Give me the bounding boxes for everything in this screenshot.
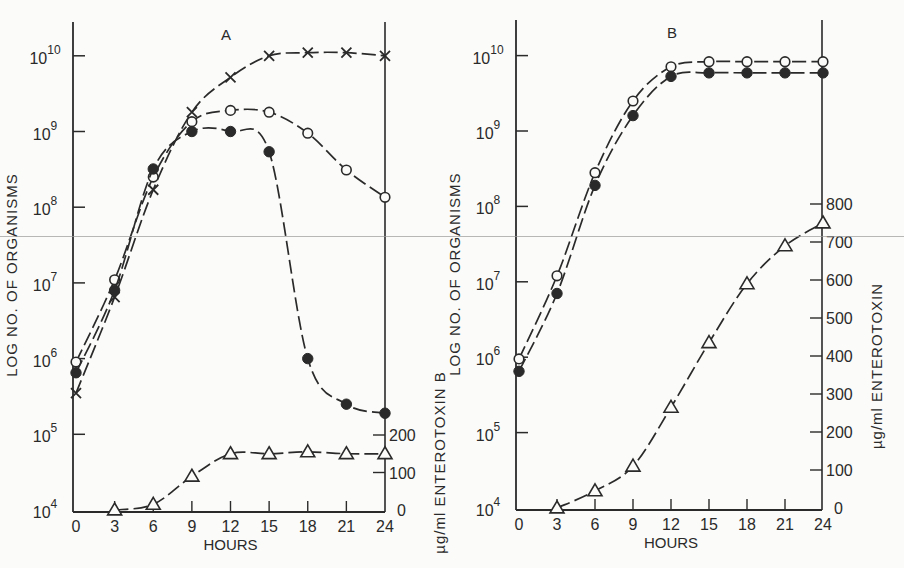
open-triangle-marker-icon [702,336,716,348]
x-tick-label: 9 [187,518,196,535]
filled-circle-marker-icon [187,126,197,136]
filled-circle-marker-icon [380,408,390,418]
x-tick-label: 9 [629,516,638,533]
y2-tick-label: 800 [826,196,853,213]
series-line [76,52,385,393]
growth-enterotoxin-chart: A104105106107108109101003691215182124HOU… [0,0,904,568]
panel-a-chart: A104105106107108109101003691215182124HOU… [3,22,448,554]
y2-tick-label: 100 [389,465,416,482]
filled-circle-marker-icon [780,68,790,78]
y-tick-label: 109 [33,119,58,143]
x-tick-label: 15 [700,516,718,533]
x-tick-label: 3 [553,516,562,533]
open-triangle-marker-icon [778,239,792,251]
open-triangle-marker-icon [816,216,830,228]
series-filled-circle [514,68,828,377]
x-tick-label: 6 [591,516,600,533]
y2-tick-label: 400 [826,348,853,365]
filled-circle-marker-icon [303,353,313,363]
open-triangle-marker-icon [262,447,276,459]
y-tick-label: 1010 [29,43,60,67]
filled-circle-marker-icon [148,164,158,174]
series-open-circle [514,57,828,364]
x-tick-label: 0 [515,516,524,533]
x-tick-label: 24 [376,518,394,535]
y2-tick-label: 100 [826,462,853,479]
y-tick-label: 108 [476,193,501,217]
series-line [76,128,385,413]
filled-circle-marker-icon [666,71,676,81]
y-tick-label: 106 [476,344,501,368]
x-tick-label: 12 [222,518,240,535]
open-circle-marker-icon [187,117,197,127]
panel-title: B [667,24,677,41]
open-circle-marker-icon [780,57,790,67]
x-tick-label: 6 [149,518,158,535]
series-open-triangle [108,445,392,515]
filled-circle-marker-icon [225,126,235,136]
open-circle-marker-icon [628,96,638,106]
y2-axis-label: µg/ml ENTEROTOXIN [868,283,885,449]
y2-tick-label: 0 [397,502,406,519]
y-tick-label: 106 [33,346,58,370]
x-axis-label: HOURS [203,536,257,553]
y2-tick-label: 600 [826,272,853,289]
open-circle-marker-icon [704,57,714,67]
filled-circle-marker-icon [552,288,562,298]
series-line [519,61,823,359]
cross-marker-icon [226,72,236,82]
y-tick-label: 105 [33,421,58,445]
x-tick-label: 18 [738,516,756,533]
open-triangle-marker-icon [588,484,602,496]
open-triangle-marker-icon [185,469,199,481]
filled-circle-marker-icon [341,399,351,409]
figure: A104105106107108109101003691215182124HOU… [0,0,904,568]
open-circle-marker-icon [264,107,274,117]
y-axis-label: LOG NO. OF ORGANISMS [3,173,20,376]
x-tick-label: 18 [299,518,317,535]
open-circle-marker-icon [380,193,390,203]
y2-axis-label: µg/ml ENTEROTOXIN B [431,371,448,553]
open-triangle-marker-icon [146,497,160,509]
y2-tick-label: 200 [389,427,416,444]
open-circle-marker-icon [226,106,236,116]
x-tick-label: 24 [814,516,832,533]
x-tick-label: 12 [662,516,680,533]
open-circle-marker-icon [666,62,676,72]
open-triangle-marker-icon [550,501,564,513]
series-open-triangle [550,216,830,513]
y2-tick-label: 200 [826,424,853,441]
y-tick-label: 104 [33,497,58,521]
open-circle-marker-icon [303,128,313,138]
open-circle-marker-icon [818,57,828,67]
x-tick-label: 21 [776,516,794,533]
y-tick-label: 104 [476,495,501,519]
y-tick-label: 105 [476,420,501,444]
y-axis-label: LOG NO. OF ORGANISMS [446,172,463,375]
series-line [519,72,823,371]
filled-circle-marker-icon [742,68,752,78]
open-triangle-marker-icon [339,447,353,459]
x-tick-label: 21 [337,518,355,535]
filled-circle-marker-icon [109,285,119,295]
filled-circle-marker-icon [628,110,638,120]
open-circle-marker-icon [742,57,752,67]
filled-circle-marker-icon [818,68,828,78]
cross-marker-icon [187,107,197,117]
y-tick-label: 108 [33,194,58,218]
y-tick-label: 109 [476,118,501,142]
filled-circle-marker-icon [514,366,524,376]
panel-b-chart: B104105106107108109101003691215182124HOU… [446,20,885,551]
scan-artifact-line [0,236,904,237]
cross-marker-icon [264,51,274,61]
open-triangle-marker-icon [626,459,640,471]
filled-circle-marker-icon [704,68,714,78]
series-x [71,48,390,398]
open-triangle-marker-icon [378,447,392,459]
filled-circle-marker-icon [264,147,274,157]
open-triangle-marker-icon [301,445,315,457]
series-line [557,223,823,508]
y2-tick-label: 0 [834,500,843,517]
y-tick-label: 107 [476,269,501,293]
filled-circle-marker-icon [71,368,81,378]
